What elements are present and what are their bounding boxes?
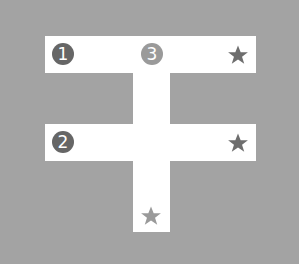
marker-2-label: 2 [58,134,69,151]
marker-3-label: 3 [147,46,158,63]
star-icon-bottom [140,205,162,227]
diagram-board: 1 2 3 [0,0,299,264]
marker-3: 3 [141,43,163,65]
vertical-stem-path [133,36,170,232]
marker-1-label: 1 [58,46,69,63]
marker-2: 2 [52,131,74,153]
star-icon-top-right [227,44,249,66]
marker-1: 1 [52,43,74,65]
star-icon-middle-right [227,132,249,154]
